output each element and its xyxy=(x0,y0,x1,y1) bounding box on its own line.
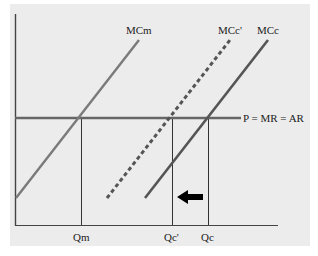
qc-prime-label: Qc' xyxy=(164,231,179,243)
mcm-label: MCm xyxy=(126,24,152,36)
diagram-canvas xyxy=(0,0,318,256)
qm-label: Qm xyxy=(73,231,90,243)
qc-label: Qc xyxy=(201,231,214,243)
price-line-label: P = MR = AR xyxy=(243,112,304,124)
mcc-label: MCc xyxy=(257,24,279,36)
left-arrow-icon xyxy=(177,190,203,204)
mcc-prime-label: MCc' xyxy=(218,24,242,36)
